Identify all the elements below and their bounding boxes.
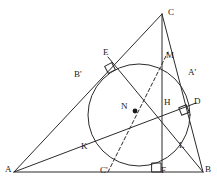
- label-K: K: [81, 142, 88, 151]
- geometry-diagram-canvas: C E M B' A' N H D K L A C' F B: [0, 0, 217, 184]
- cevian-A-to-D: [14, 103, 196, 172]
- point-N-marker: [133, 109, 138, 114]
- label-C: C: [168, 8, 174, 17]
- side-AC: [14, 14, 162, 172]
- label-N: N: [121, 102, 128, 111]
- segment-C-prime-to-M: [108, 52, 168, 172]
- label-E: E: [103, 48, 109, 57]
- label-M: M: [166, 51, 174, 60]
- label-B: B: [205, 165, 211, 174]
- label-F: F: [161, 166, 166, 175]
- label-H: H: [164, 98, 171, 107]
- label-A: A: [5, 165, 12, 174]
- label-A-prime: A': [188, 68, 196, 77]
- figure-svg: [0, 0, 217, 184]
- label-D: D: [194, 97, 201, 106]
- label-L: L: [179, 141, 185, 150]
- label-C-prime: C': [100, 166, 108, 175]
- label-B-prime: B': [74, 70, 82, 79]
- nine-point-circle: [88, 64, 190, 166]
